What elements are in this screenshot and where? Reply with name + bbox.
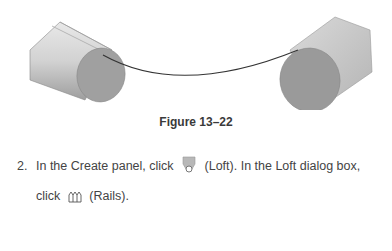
figure-13-22 <box>0 0 392 110</box>
step-number: 2. <box>17 153 27 180</box>
loft-icon <box>181 156 197 183</box>
rails-icon <box>68 186 82 213</box>
left-cylinder <box>30 22 129 106</box>
right-cylinder <box>275 17 372 110</box>
figure-caption: Figure 13–22 <box>0 115 392 129</box>
rail-curve <box>103 50 298 75</box>
step-text-line1-post: (Loft). In the Loft dialog box, <box>205 159 361 173</box>
step-text-line2-post: (Rails). <box>89 189 129 203</box>
step-text-line2-pre: click <box>36 189 60 203</box>
step-text-line1-pre: In the Create panel, click <box>36 159 174 173</box>
cylinders-illustration <box>0 0 392 110</box>
